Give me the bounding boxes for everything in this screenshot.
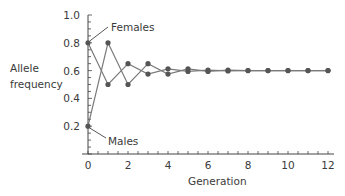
data-point [105,82,110,87]
females-label: Females [111,21,154,33]
x-tick-label: 10 [281,159,294,171]
x-tick-label: 2 [125,159,132,171]
x-tick-label: 4 [165,159,172,171]
females-leader-line [90,27,108,41]
data-point [85,124,90,129]
data-point [165,71,170,76]
data-point [185,66,190,71]
y-tick-label: 1.0 [63,9,80,21]
data-point [105,40,110,45]
data-point [145,71,150,76]
y-tick-label: 0.6 [63,65,80,77]
y-tick-label: 0.8 [63,37,80,49]
data-point [125,82,130,87]
y-tick-label: 0.2 [63,120,80,132]
series-line-females [88,43,328,85]
males-label: Males [108,135,138,147]
data-point [225,68,230,73]
data-point [85,40,90,45]
x-tick-label: 8 [245,159,252,171]
line-chart: 0.20.40.60.81.0024681012FemalesMales [0,0,345,196]
data-point [245,68,250,73]
data-point [145,61,150,66]
data-point [285,68,290,73]
data-point [165,66,170,71]
data-point [325,68,330,73]
males-leader-line [90,128,106,138]
x-tick-label: 12 [321,159,334,171]
y-tick-label: 0.4 [63,92,80,104]
data-point [265,68,270,73]
data-point [205,69,210,74]
data-point [305,68,310,73]
series-line-males [88,43,328,126]
data-point [125,61,130,66]
x-tick-label: 6 [205,159,212,171]
x-tick-label: 0 [85,159,92,171]
